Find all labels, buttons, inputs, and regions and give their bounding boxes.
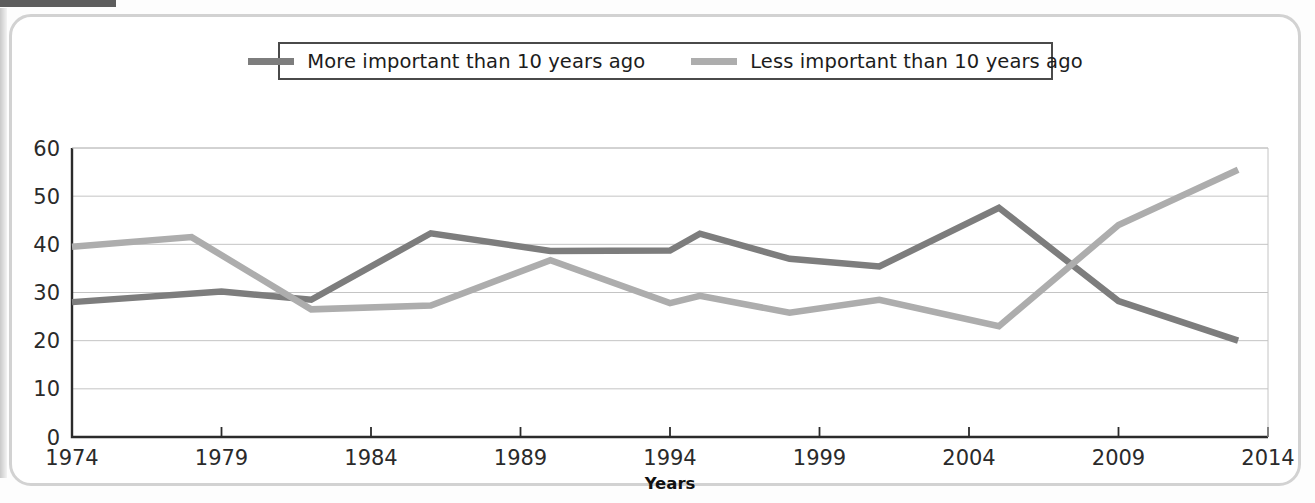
legend-item-more-important[interactable]: More important than 10 years ago bbox=[248, 50, 645, 73]
legend-swatch-more-important-icon bbox=[248, 58, 294, 65]
y-tick-label-10: 10 bbox=[33, 377, 60, 401]
legend-label-more-important: More important than 10 years ago bbox=[307, 50, 645, 73]
x-tick-label-2014: 2014 bbox=[1241, 446, 1294, 470]
y-tick-label-60: 60 bbox=[33, 137, 60, 161]
x-tick-label-1994: 1994 bbox=[643, 446, 696, 470]
gridlines bbox=[72, 148, 1268, 389]
x-tick-label-1989: 1989 bbox=[494, 446, 547, 470]
x-tick-label-1979: 1979 bbox=[195, 446, 248, 470]
y-tick-label-30: 30 bbox=[33, 281, 60, 305]
x-tick-label-1999: 1999 bbox=[793, 446, 846, 470]
legend-label-less-important: Less important than 10 years ago bbox=[750, 50, 1082, 73]
y-tick-label-20: 20 bbox=[33, 329, 60, 353]
legend-item-less-important[interactable]: Less important than 10 years ago bbox=[691, 50, 1082, 73]
legend-swatch-less-important-icon bbox=[691, 58, 737, 65]
x-tick-label-2009: 2009 bbox=[1092, 446, 1145, 470]
x-tick-label-2004: 2004 bbox=[942, 446, 995, 470]
x-tick-label-1974: 1974 bbox=[45, 446, 98, 470]
x-axis-title: Years bbox=[644, 474, 696, 493]
data-series-lines bbox=[72, 170, 1238, 341]
scanned-page: 0102030405060 19741979198419891994199920… bbox=[0, 0, 1315, 503]
chart-legend: More important than 10 years ago Less im… bbox=[278, 42, 1053, 80]
y-tick-label-40: 40 bbox=[33, 233, 60, 257]
x-tick-label-1984: 1984 bbox=[344, 446, 397, 470]
y-tick-label-50: 50 bbox=[33, 185, 60, 209]
x-axis-tick-labels: 197419791984198919941999200420092014 bbox=[45, 446, 1294, 470]
y-axis-tick-labels: 0102030405060 bbox=[33, 137, 60, 450]
